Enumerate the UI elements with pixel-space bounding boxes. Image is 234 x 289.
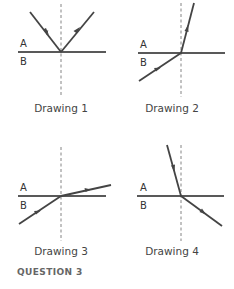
medium-a-label: A <box>20 38 27 49</box>
medium-b-label: B <box>140 200 147 211</box>
drawing-caption: Drawing 2 <box>145 102 199 114</box>
drawing-1: A B Drawing 1 <box>18 4 106 114</box>
medium-b-label: B <box>140 57 147 68</box>
arrow-icon <box>185 25 189 32</box>
medium-b-label: B <box>20 200 27 211</box>
drawing-3: A B Drawing 3 <box>18 147 111 257</box>
arrow-icon <box>171 165 175 173</box>
medium-a-label: A <box>140 39 147 50</box>
medium-a-label: A <box>20 182 27 193</box>
question-label: QUESTION 3 <box>17 267 83 277</box>
drawing-caption: Drawing 1 <box>34 102 88 114</box>
drawing-caption: Drawing 4 <box>145 245 199 257</box>
medium-a-label: A <box>140 182 147 193</box>
drawing-caption: Drawing 3 <box>34 245 88 257</box>
medium-b-label: B <box>20 56 27 67</box>
optics-diagram: A B Drawing 1 A B Drawing 2 A B Drawing … <box>0 0 234 289</box>
drawing-4: A B Drawing 4 <box>137 145 224 257</box>
drawing-2: A B Drawing 2 <box>138 3 225 114</box>
